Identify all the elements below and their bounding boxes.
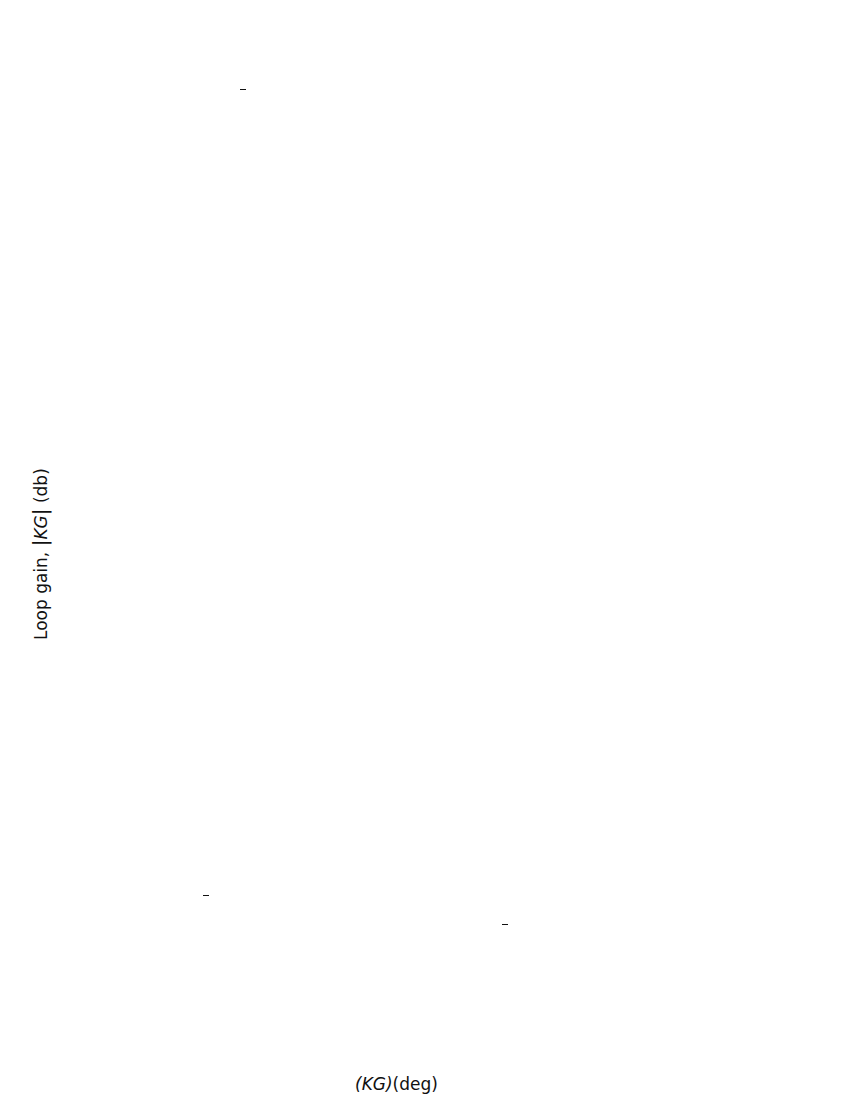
figure-title-fraction [502, 924, 508, 925]
x-axis-title: (KG)(deg) [355, 1072, 438, 1094]
magnitude-callout-fraction [203, 895, 209, 896]
nichols-chart-figure: (KG)(deg) Loop gain, |KG| (db) [0, 0, 841, 1115]
y-axis-title: Loop gain, |KG| (db) [28, 468, 52, 640]
nichols-chart-canvas [0, 0, 841, 1115]
phase-callout-fraction [240, 89, 246, 90]
figure-title-block [498, 910, 512, 934]
magnitude-callout [199, 884, 213, 904]
phase-callout [236, 78, 250, 98]
